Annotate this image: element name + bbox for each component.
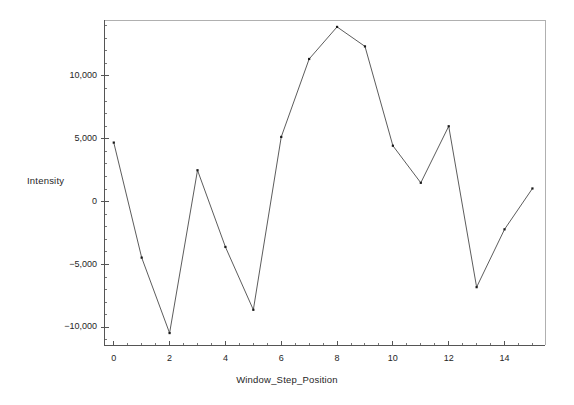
y-tick-label: 5,000 xyxy=(20,133,97,143)
x-tick-label: 4 xyxy=(205,353,245,363)
x-tick-label: 6 xyxy=(261,353,301,363)
y-tick-label: 0 xyxy=(20,196,97,206)
x-tick-label: 14 xyxy=(485,353,525,363)
x-tick-label: 12 xyxy=(429,353,469,363)
data-series-line xyxy=(114,27,533,333)
data-point-markers xyxy=(113,26,534,334)
x-tick-label: 8 xyxy=(317,353,357,363)
chart-container: Intensity Window_Step_Position −10,000−5… xyxy=(0,0,574,405)
plot-frame xyxy=(104,20,545,345)
x-tick-label: 0 xyxy=(94,353,134,363)
y-tick-label: −5,000 xyxy=(20,259,97,269)
x-tick-label: 2 xyxy=(150,353,190,363)
y-axis-title: Intensity xyxy=(27,175,64,186)
y-tick-label: −10,000 xyxy=(20,321,97,331)
x-tick-label: 10 xyxy=(373,353,413,363)
x-axis-title: Window_Step_Position xyxy=(0,374,574,385)
y-tick-label: 10,000 xyxy=(20,70,97,80)
